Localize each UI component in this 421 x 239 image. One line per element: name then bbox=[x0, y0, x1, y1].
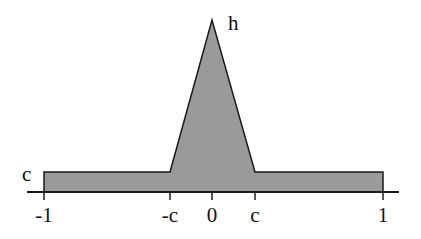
tick-label-0: 0 bbox=[207, 203, 218, 227]
diagram-canvas: -1 -c 0 c 1 h c bbox=[0, 0, 421, 239]
tick-label-neg-1: -1 bbox=[35, 203, 53, 227]
peak-label: h bbox=[228, 11, 239, 35]
tick-label-c: c bbox=[250, 203, 259, 227]
function-area bbox=[44, 20, 383, 192]
tick-label-neg-c: -c bbox=[162, 203, 178, 227]
plateau-label: c bbox=[22, 162, 31, 186]
tick-label-1: 1 bbox=[378, 203, 389, 227]
